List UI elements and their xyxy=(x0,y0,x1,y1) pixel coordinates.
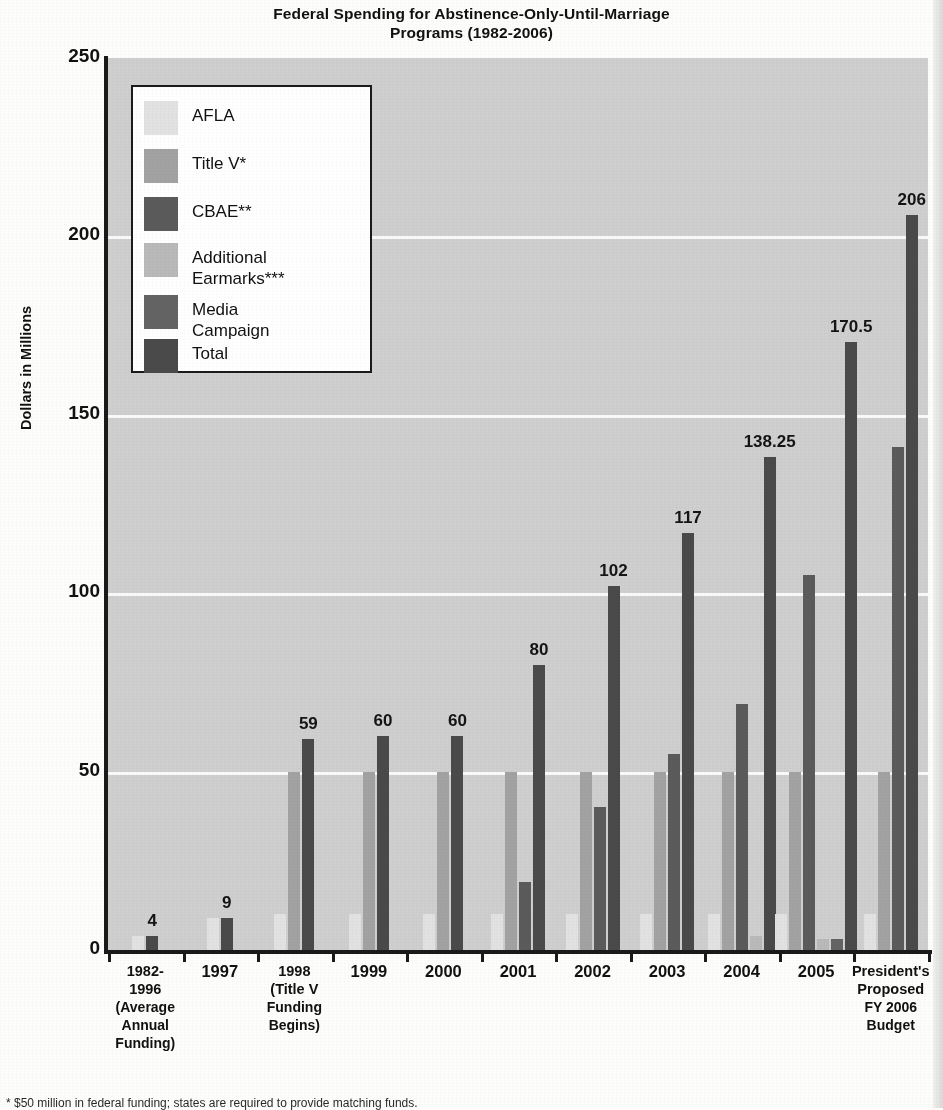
bar-afla-1998-title- xyxy=(274,914,286,950)
legend-item-total[interactable]: Total xyxy=(144,339,228,373)
bar-value-label: 4 xyxy=(107,911,197,931)
x-category-3: 1998(Title VFundingBegins) xyxy=(251,962,338,1034)
bar-total-1998-title- xyxy=(302,739,314,950)
x-category-line: FY 2006 xyxy=(847,998,934,1016)
x-tick-mark xyxy=(183,950,186,962)
legend-swatch-earmark xyxy=(144,243,178,277)
x-tick-mark xyxy=(481,950,484,962)
chart-title-line-1: Federal Spending for Abstinence-Only-Unt… xyxy=(0,4,943,23)
chart-title-line-2: Programs (1982-2006) xyxy=(0,23,943,42)
bar-media-2005 xyxy=(831,939,843,950)
x-category-line: Budget xyxy=(847,1016,934,1034)
bar-cbae-2005 xyxy=(803,575,815,950)
legend-item-cbae[interactable]: CBAE** xyxy=(144,197,252,231)
bar-value-label: 117 xyxy=(643,508,733,528)
bar-value-label: 9 xyxy=(182,893,272,913)
legend-label-cbae: CBAE** xyxy=(192,197,252,222)
x-category-line: Funding) xyxy=(102,1034,189,1052)
bar-value-label: 138.25 xyxy=(725,432,815,452)
x-tick-mark xyxy=(928,950,931,962)
bar-titlev-2003 xyxy=(654,772,666,950)
bar-titlev-2000 xyxy=(437,772,449,950)
bar-total-2000 xyxy=(451,736,463,950)
x-category-8: 2003 xyxy=(624,962,711,981)
y-tick-250: 250 xyxy=(0,45,100,67)
bar-total-president-s- xyxy=(906,215,918,950)
bar-earmark-2005 xyxy=(817,939,829,950)
bar-afla-2000 xyxy=(423,914,435,950)
x-axis-line xyxy=(104,950,932,954)
bar-total-2002 xyxy=(608,586,620,950)
bar-cbae-2001 xyxy=(519,882,531,950)
bar-afla-2002 xyxy=(566,914,578,950)
x-category-6: 2001 xyxy=(475,962,562,981)
bar-total-1999 xyxy=(377,736,389,950)
bar-titlev-2001 xyxy=(505,772,517,950)
x-tick-mark xyxy=(406,950,409,962)
legend-swatch-total xyxy=(144,339,178,373)
bar-titlev-president-s- xyxy=(878,772,890,950)
x-category-line: 2002 xyxy=(549,962,636,981)
y-tick-150: 150 xyxy=(0,402,100,424)
bar-afla-1997 xyxy=(207,918,219,950)
x-tick-mark xyxy=(630,950,633,962)
legend-item-earmark[interactable]: AdditionalEarmarks*** xyxy=(144,243,285,289)
x-category-line: 2005 xyxy=(773,962,860,981)
x-category-7: 2002 xyxy=(549,962,636,981)
x-category-4: 1999 xyxy=(326,962,413,981)
y-tick-100: 100 xyxy=(0,580,100,602)
x-tick-mark xyxy=(332,950,335,962)
chart-title: Federal Spending for Abstinence-Only-Unt… xyxy=(0,4,943,42)
x-tick-mark xyxy=(555,950,558,962)
bar-total-2003 xyxy=(682,533,694,950)
bar-afla-1982-1996-a xyxy=(132,936,144,950)
bar-afla-2003 xyxy=(640,914,652,950)
x-category-line: 2003 xyxy=(624,962,711,981)
bar-cbae-2004 xyxy=(736,704,748,950)
legend-label-media: MediaCampaign xyxy=(192,295,270,341)
x-category-line: 2000 xyxy=(400,962,487,981)
legend-item-media[interactable]: MediaCampaign xyxy=(144,295,270,341)
legend-swatch-titlev xyxy=(144,149,178,183)
x-category-line: (Average xyxy=(102,998,189,1016)
bar-cbae-president-s- xyxy=(892,447,904,950)
bar-titlev-1999 xyxy=(363,772,375,950)
x-category-9: 2004 xyxy=(698,962,785,981)
legend-item-afla[interactable]: AFLA xyxy=(144,101,235,135)
bar-titlev-1998-title- xyxy=(288,772,300,950)
gridline-150 xyxy=(108,415,928,418)
x-category-line: Proposed xyxy=(847,980,934,998)
x-tick-mark xyxy=(108,950,111,962)
x-tick-mark xyxy=(704,950,707,962)
x-category-11: President'sProposedFY 2006Budget xyxy=(847,962,934,1034)
x-tick-mark xyxy=(853,950,856,962)
legend-label-titlev: Title V* xyxy=(192,149,246,174)
legend-swatch-cbae xyxy=(144,197,178,231)
bar-total-2001 xyxy=(533,665,545,950)
legend-label-earmark: AdditionalEarmarks*** xyxy=(192,243,285,289)
bar-titlev-2004 xyxy=(722,772,734,950)
bar-afla-2004 xyxy=(708,914,720,950)
bar-titlev-2005 xyxy=(789,772,801,950)
bar-value-label: 206 xyxy=(867,190,943,210)
bar-afla-president-s- xyxy=(864,914,876,950)
bar-afla-2005 xyxy=(775,914,787,950)
legend-item-titlev[interactable]: Title V* xyxy=(144,149,246,183)
x-category-line: Annual xyxy=(102,1016,189,1034)
legend-label-total: Total xyxy=(192,339,228,364)
bar-value-label: 170.5 xyxy=(806,317,896,337)
x-category-line: Begins) xyxy=(251,1016,338,1034)
bar-value-label: 102 xyxy=(569,561,659,581)
bar-total-2005 xyxy=(845,342,857,950)
bar-cbae-2002 xyxy=(594,807,606,950)
x-category-line: 2004 xyxy=(698,962,785,981)
bar-total-1982-1996-a xyxy=(146,936,158,950)
x-category-line: 1998 xyxy=(251,962,338,980)
y-tick-200: 200 xyxy=(0,223,100,245)
footnote: * $50 million in federal funding; states… xyxy=(6,1096,936,1110)
x-category-line: (Title V xyxy=(251,980,338,998)
bar-afla-1999 xyxy=(349,914,361,950)
legend-label-afla: AFLA xyxy=(192,101,235,126)
y-axis-line xyxy=(104,56,108,954)
x-category-5: 2000 xyxy=(400,962,487,981)
